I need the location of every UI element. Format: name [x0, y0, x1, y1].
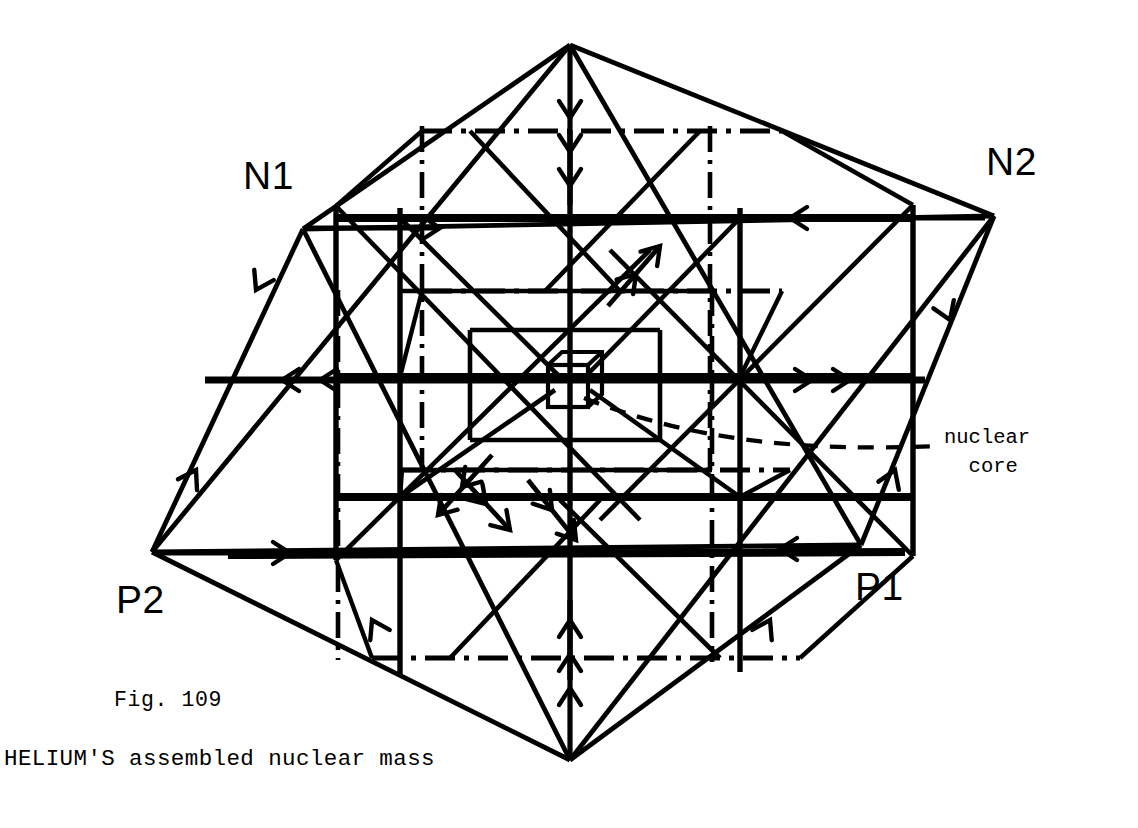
figure-title-caption: HELIUM'S assembled nuclear mass [4, 748, 435, 771]
flow-arrow-n2-rail-left [790, 207, 985, 229]
vertex-label-p1: P1 [855, 567, 904, 606]
flow-arrow-edge-n1-p2-down [246, 270, 273, 295]
flow-arrow-diag-upper-left-down [455, 470, 518, 538]
flow-arrow-top-apex-down [559, 48, 581, 205]
vertex-label-p2: P2 [116, 580, 165, 619]
flow-arrow-diag-upper-right-in [608, 239, 668, 306]
nuclear-core-annotation: nuclear core [944, 423, 1030, 481]
octahedron-edges [152, 45, 994, 760]
figure-number-caption: Fig. 109 [114, 690, 222, 712]
flow-arrow-bottom-apex-up [559, 600, 581, 757]
flow-arrow-p2-rail-right [160, 542, 290, 564]
flow-arrow-edge-bottom-right-up [752, 615, 779, 640]
vertex-label-n1: N1 [243, 156, 294, 195]
figure-container: N1 N2 P1 P2 nuclear core Fig. 109 HELIUM… [0, 0, 1138, 828]
vertex-label-n2: N2 [986, 142, 1037, 181]
interior-diagonal-struts [336, 131, 913, 658]
flow-arrow-mid-left-rail-left [215, 369, 400, 391]
